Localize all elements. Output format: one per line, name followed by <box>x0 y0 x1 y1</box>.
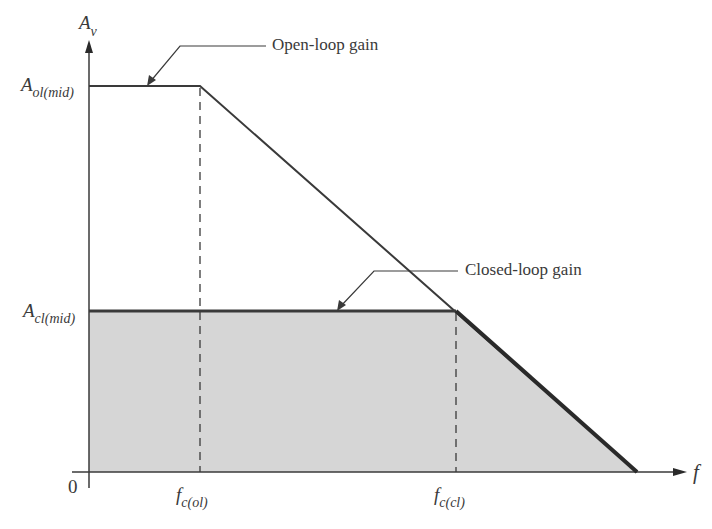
y-axis-label-sub: v <box>91 24 97 39</box>
y-tick-aol-sub: ol(mid) <box>33 85 74 100</box>
x-tick-fc-cl: fc(cl) <box>434 484 465 506</box>
closed-loop-gain-annotation: Closed-loop gain <box>465 260 582 280</box>
x-tick-fc-ol: fc(ol) <box>176 484 208 506</box>
gain-diagram <box>0 0 712 529</box>
x-axis-arrow-icon <box>673 468 687 476</box>
open-loop-leader-line <box>150 46 266 82</box>
y-tick-aol-mid: Aol(mid) <box>21 74 74 96</box>
x-tick-fc-cl-sub: c(cl) <box>439 495 465 510</box>
y-axis-arrow-icon <box>85 40 93 53</box>
open-loop-gain-annotation: Open-loop gain <box>272 35 378 55</box>
y-tick-aol-main: A <box>21 74 33 95</box>
y-axis-label: Av <box>79 12 97 34</box>
origin-label: 0 <box>68 476 78 498</box>
y-tick-acl-mid: Acl(mid) <box>23 300 75 322</box>
y-tick-acl-main: A <box>23 300 35 321</box>
closed-loop-leader-line <box>340 271 458 307</box>
y-tick-acl-sub: cl(mid) <box>35 311 75 326</box>
x-axis-label: f <box>693 460 699 485</box>
closed-loop-bandwidth-area <box>89 311 637 472</box>
y-axis-label-main: A <box>79 12 91 33</box>
x-tick-fc-ol-sub: c(ol) <box>181 495 207 510</box>
